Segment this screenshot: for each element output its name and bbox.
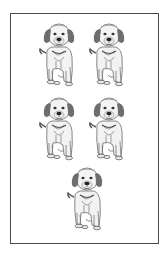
puppy-image-4: puppy (88, 95, 130, 161)
puppy-icon (38, 95, 80, 161)
puppy-image-2: puppy (88, 21, 130, 87)
puppy-image-1: puppy (38, 21, 80, 87)
puppy-icon (88, 95, 130, 161)
puppy-icon (38, 21, 80, 87)
puppy-image-3: puppy (38, 95, 80, 161)
puppy-image-5: puppy (66, 165, 108, 231)
puppy-icon (88, 21, 130, 87)
puppy-icon (66, 165, 108, 231)
